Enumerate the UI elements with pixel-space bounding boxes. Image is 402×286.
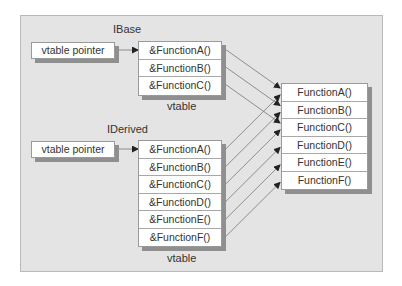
function-entry: FunctionC() [282,119,367,137]
vtable-entry: &FunctionD() [139,194,221,212]
iderived-vtable-label: vtable [167,252,196,264]
vtable-entry: &FunctionE() [139,211,221,229]
function-entry: FunctionF() [282,172,367,190]
function-entry: FunctionA() [282,84,367,102]
derived-entry-wire [226,183,280,237]
derived-entry-wire [226,165,280,219]
derived-entry-wire [226,113,280,167]
ibase-vtable: &FunctionA() &FunctionB() &FunctionC() [138,41,222,96]
iderived-title: IDerived [107,123,148,135]
ibase-title: IBase [113,23,141,35]
function-entry: FunctionB() [282,102,367,120]
vtable-entry: &FunctionC() [139,176,221,194]
vtable-entry: &FunctionB() [139,159,221,177]
function-implementations: FunctionA() FunctionB() FunctionC() Func… [281,83,368,190]
vtable-entry: &FunctionC() [139,77,221,95]
derived-entry-wire [226,148,280,202]
base-entry-wire [226,85,280,123]
vtable-entry: &FunctionB() [139,60,221,78]
ibase-vtable-pointer: vtable pointer [31,42,115,59]
base-entry-wire [226,67,280,105]
vtable-entry: &FunctionF() [139,229,221,247]
derived-entry-wire [226,95,280,149]
base-entry-wire [226,50,280,88]
iderived-vtable-pointer: vtable pointer [31,141,115,158]
function-entry: FunctionD() [282,137,367,155]
ibase-vtable-label: vtable [167,100,196,112]
iderived-vtable: &FunctionA() &FunctionB() &FunctionC() &… [138,140,222,247]
vtable-entry: &FunctionA() [139,141,221,159]
vtable-entry: &FunctionA() [139,42,221,60]
derived-entry-wire [226,130,280,184]
function-entry: FunctionE() [282,154,367,172]
